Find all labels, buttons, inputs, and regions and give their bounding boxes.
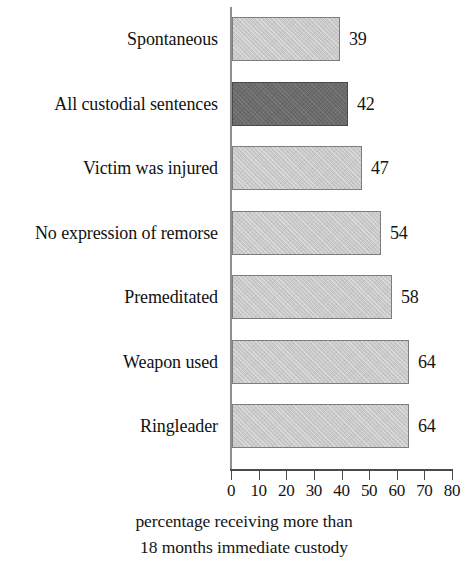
x-axis-tick-label: 70 <box>409 481 439 501</box>
x-axis-tick-label: 80 <box>437 481 464 501</box>
plot-area: Spontaneous39All custodial sentences42Vi… <box>0 0 464 480</box>
x-axis-tick-label: 40 <box>327 481 357 501</box>
x-axis-tick <box>231 471 232 480</box>
bar-value-label: 39 <box>349 16 367 62</box>
x-axis-tick <box>452 471 453 480</box>
caption-line-1: percentage receiving more than <box>0 508 464 534</box>
bar-value-label: 58 <box>401 274 419 320</box>
bar <box>232 82 348 126</box>
bar-row: No expression of remorse54 <box>0 210 464 256</box>
bar-value-label: 54 <box>390 210 408 256</box>
x-axis-tick-label: 50 <box>354 481 384 501</box>
caption-line-2: 18 months immediate custody <box>0 534 464 560</box>
bar <box>232 211 381 255</box>
bar-row: Spontaneous39 <box>0 16 464 62</box>
category-label: Ringleader <box>140 403 218 449</box>
category-label: All custodial sentences <box>54 81 218 127</box>
bar-chart: Spontaneous39All custodial sentences42Vi… <box>0 0 464 563</box>
chart-caption: percentage receiving more than 18 months… <box>0 508 464 560</box>
bar-row: Premeditated58 <box>0 274 464 320</box>
bar <box>232 17 340 61</box>
category-label: No expression of remorse <box>35 210 218 256</box>
category-label: Victim was injured <box>83 145 218 191</box>
bar-value-label: 64 <box>418 403 436 449</box>
x-axis-tick <box>286 471 287 480</box>
x-axis-tick-label: 30 <box>299 481 329 501</box>
x-axis-tick-label: 10 <box>244 481 274 501</box>
bar <box>232 146 362 190</box>
bar-value-label: 42 <box>357 81 375 127</box>
x-axis-tick <box>369 471 370 480</box>
x-axis-tick <box>259 471 260 480</box>
bar-value-label: 64 <box>418 339 436 385</box>
x-axis-tick-label: 20 <box>271 481 301 501</box>
bar-row: Victim was injured47 <box>0 145 464 191</box>
bar-row: All custodial sentences42 <box>0 81 464 127</box>
bar-row: Ringleader64 <box>0 403 464 449</box>
category-label: Premeditated <box>124 274 218 320</box>
bar <box>232 340 409 384</box>
x-axis-tick-label: 0 <box>216 481 246 501</box>
category-label: Weapon used <box>123 339 218 385</box>
bar-row: Weapon used64 <box>0 339 464 385</box>
bar <box>232 275 392 319</box>
x-axis-tick <box>314 471 315 480</box>
x-axis-tick <box>397 471 398 480</box>
x-axis-tick-label: 60 <box>382 481 412 501</box>
category-label: Spontaneous <box>127 16 218 62</box>
bar <box>232 404 409 448</box>
x-axis-tick <box>424 471 425 480</box>
bar-value-label: 47 <box>371 145 389 191</box>
x-axis-tick <box>342 471 343 480</box>
